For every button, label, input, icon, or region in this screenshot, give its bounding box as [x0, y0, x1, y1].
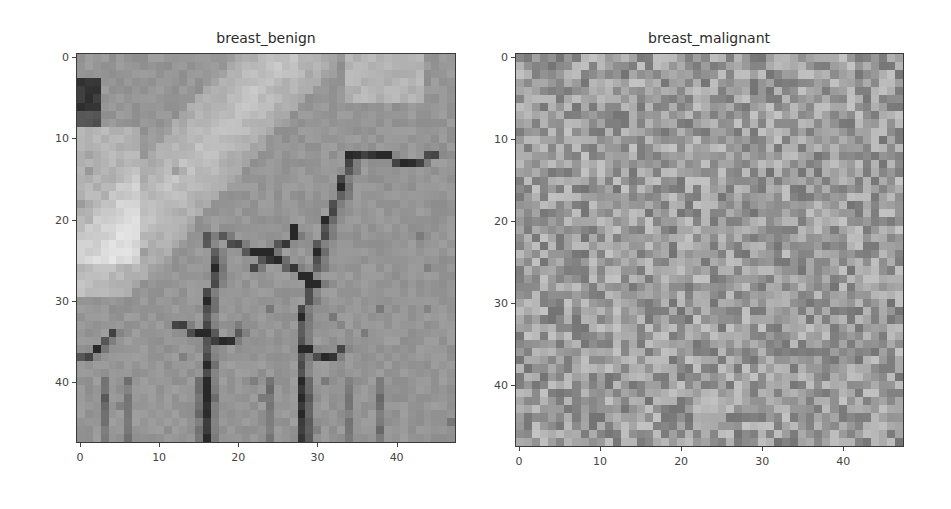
y-tick — [511, 57, 515, 58]
panel-title: breast_malignant — [648, 30, 770, 46]
x-tick-label: 30 — [310, 451, 324, 464]
y-tick-label: 0 — [501, 51, 508, 64]
y-tick-label: 10 — [494, 133, 508, 146]
x-tick-label: 20 — [674, 455, 688, 468]
x-tick — [317, 443, 318, 447]
x-tick — [762, 447, 763, 451]
image-axes-benign — [76, 53, 456, 443]
x-tick — [519, 447, 520, 451]
x-tick-label: 0 — [76, 451, 83, 464]
y-tick — [72, 382, 76, 383]
y-tick — [72, 138, 76, 139]
y-tick — [511, 385, 515, 386]
y-tick-label: 30 — [55, 294, 69, 307]
y-tick-label: 30 — [494, 297, 508, 310]
y-tick — [72, 301, 76, 302]
image-axes-malignant — [515, 53, 904, 447]
x-tick-label: 40 — [390, 451, 404, 464]
y-tick-label: 40 — [494, 379, 508, 392]
y-tick-label: 20 — [494, 215, 508, 228]
x-tick — [600, 447, 601, 451]
x-tick — [80, 443, 81, 447]
x-tick — [397, 443, 398, 447]
y-tick — [72, 220, 76, 221]
y-tick — [72, 57, 76, 58]
panel-title: breast_benign — [216, 30, 315, 46]
x-tick-label: 40 — [836, 455, 850, 468]
y-tick — [511, 303, 515, 304]
y-tick-label: 20 — [55, 213, 69, 226]
y-tick-label: 0 — [62, 51, 69, 64]
x-tick — [238, 443, 239, 447]
benign-image — [77, 54, 455, 442]
x-tick-label: 30 — [755, 455, 769, 468]
y-tick-label: 40 — [55, 376, 69, 389]
x-tick-label: 0 — [516, 455, 523, 468]
x-tick-label: 10 — [152, 451, 166, 464]
x-tick-label: 10 — [593, 455, 607, 468]
x-tick — [843, 447, 844, 451]
y-tick — [511, 221, 515, 222]
y-tick — [511, 139, 515, 140]
y-tick-label: 10 — [55, 132, 69, 145]
x-tick-label: 20 — [231, 451, 245, 464]
malignant-image — [516, 54, 903, 446]
x-tick — [159, 443, 160, 447]
x-tick — [681, 447, 682, 451]
